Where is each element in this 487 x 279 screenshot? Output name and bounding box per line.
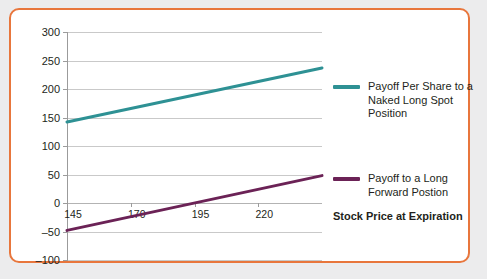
plot-area: –100–50050100150200250300 145170195220 (67, 23, 322, 264)
legend-entry-forward[interactable]: Payoff to a Long Forward Postion (333, 172, 473, 199)
y-axis-label-300: 300 (42, 26, 60, 38)
y-axis-label--50: –50 (42, 226, 60, 238)
y-axis-label-250: 250 (42, 55, 60, 67)
y-axis-label--100: –100 (36, 254, 60, 266)
series-line-0 (67, 68, 322, 122)
legend-label-spot: Payoff Per Share to a Naked Long Spot Po… (368, 80, 473, 121)
y-axis-label-200: 200 (42, 83, 60, 95)
series-line-1 (67, 176, 322, 231)
legend-entry-spot[interactable]: Payoff Per Share to a Naked Long Spot Po… (333, 80, 473, 121)
y-axis-label-0: 0 (54, 197, 60, 209)
legend: Payoff Per Share to a Naked Long Spot Po… (333, 23, 473, 264)
y-axis-label-50: 50 (48, 169, 60, 181)
y-axis-label-150: 150 (42, 112, 60, 124)
chart-card: –100–50050100150200250300 145170195220 P… (9, 8, 470, 263)
legend-swatch-forward-icon (333, 177, 360, 181)
x-axis-title: Stock Price at Expiration (333, 210, 463, 222)
legend-label-forward: Payoff to a Long Forward Postion (368, 172, 448, 199)
legend-swatch-spot-icon (333, 85, 360, 89)
series-lines (67, 23, 322, 264)
y-axis-label-100: 100 (42, 140, 60, 152)
